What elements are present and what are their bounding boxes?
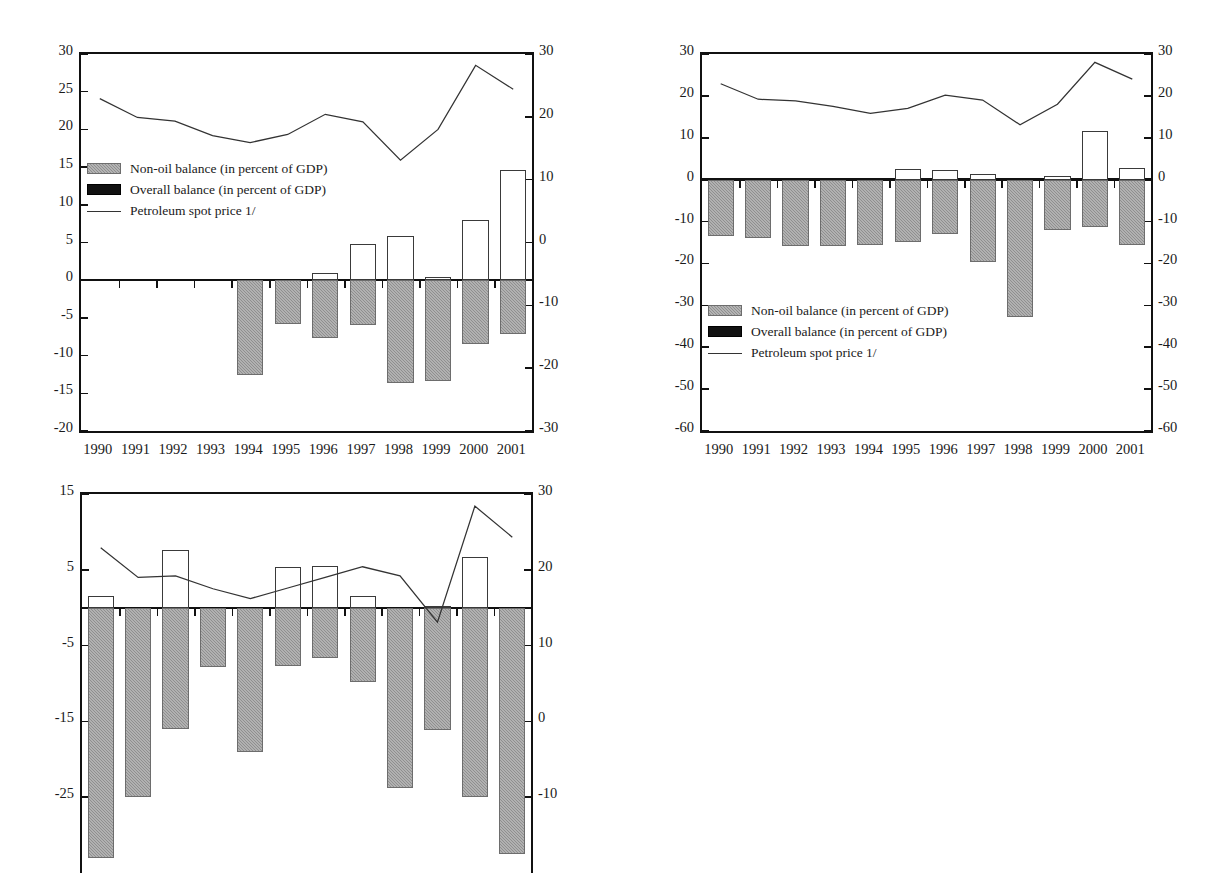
y-tick-label-right: -60 bbox=[1158, 419, 1214, 436]
y-tick-label-left: -10 bbox=[15, 344, 73, 361]
oil-price-line-layer bbox=[82, 494, 531, 873]
y-tick-label-right: 10 bbox=[539, 168, 595, 185]
y-tick-label-right: 0 bbox=[539, 231, 595, 248]
y-tick-label-left: 15 bbox=[16, 482, 74, 499]
y-tick-label-right: 30 bbox=[539, 42, 595, 59]
y-tick-label-right: 20 bbox=[539, 105, 595, 122]
y-tick-label-right: -30 bbox=[1158, 293, 1214, 310]
y-tick-label-right: 10 bbox=[538, 634, 594, 651]
chart-panel-equatorial-guinea: Equatorial Guinea Non-oil balance (in pe… bbox=[0, 0, 620, 480]
y-tick-label-left: 30 bbox=[15, 42, 73, 59]
y-tick-label-left: 0 bbox=[15, 268, 73, 285]
y-tick-label-right: -50 bbox=[1158, 377, 1214, 394]
y-tick-label-left: -15 bbox=[15, 381, 73, 398]
y-tick-label-right: 20 bbox=[1158, 84, 1214, 101]
y-tick-label-right: 30 bbox=[1158, 42, 1214, 59]
y-tick-label-left: -60 bbox=[636, 419, 694, 436]
y-tick-label-left: -5 bbox=[15, 306, 73, 323]
y-tick-label-left: 10 bbox=[15, 193, 73, 210]
plot-area-equatorial-guinea bbox=[79, 52, 534, 433]
oil-price-line-layer bbox=[702, 54, 1151, 431]
y-tick-label-left: 0 bbox=[636, 168, 694, 185]
plot-area-nigeria bbox=[80, 492, 533, 873]
y-tick-label-right: -10 bbox=[538, 785, 594, 802]
y-tick-label-right: -20 bbox=[539, 356, 595, 373]
x-axis-year-label: 2001 bbox=[1106, 441, 1154, 458]
y-tick-label-left: -15 bbox=[16, 709, 74, 726]
y-tick-label-right: 20 bbox=[538, 558, 594, 575]
x-axis-year-label: 2001 bbox=[487, 441, 535, 458]
chart-panel-gabon: Gabon Non-oil balance (in percent of GDP… bbox=[620, 0, 1220, 480]
y-tick-label-right: 10 bbox=[1158, 126, 1214, 143]
y-tick-label-right: -10 bbox=[1158, 210, 1214, 227]
y-tick-label-left: 5 bbox=[16, 558, 74, 575]
y-tick-label-left: 10 bbox=[636, 126, 694, 143]
oil-price-line bbox=[100, 65, 513, 160]
y-tick-label-left: -50 bbox=[636, 377, 694, 394]
chart-panel-nigeria: Nigeria 155-5-15-253020100-10 bbox=[0, 480, 620, 764]
y-tick-label-left: 20 bbox=[15, 117, 73, 134]
oil-price-line bbox=[721, 62, 1133, 124]
y-tick-label-left: 5 bbox=[15, 231, 73, 248]
y-tick-label-left: 25 bbox=[15, 80, 73, 97]
y-tick-label-left: 20 bbox=[636, 84, 694, 101]
y-tick-label-left: 30 bbox=[636, 42, 694, 59]
y-tick-label-right: -40 bbox=[1158, 335, 1214, 352]
y-tick-label-right: 0 bbox=[1158, 168, 1214, 185]
y-tick-label-right: -20 bbox=[1158, 251, 1214, 268]
y-tick-label-right: -10 bbox=[539, 293, 595, 310]
y-tick-label-left: -25 bbox=[16, 785, 74, 802]
y-tick-label-right: 30 bbox=[538, 482, 594, 499]
y-tick-label-left: -5 bbox=[16, 634, 74, 651]
y-tick-label-left: -10 bbox=[636, 210, 694, 227]
plot-area-gabon bbox=[700, 52, 1153, 433]
y-tick-label-left: -20 bbox=[15, 419, 73, 436]
y-tick-label-left: -30 bbox=[636, 293, 694, 310]
y-tick-label-left: -20 bbox=[636, 251, 694, 268]
y-tick-label-right: -30 bbox=[539, 419, 595, 436]
oil-price-line-layer bbox=[81, 54, 532, 431]
oil-price-line bbox=[101, 506, 513, 622]
y-tick-label-left: -40 bbox=[636, 335, 694, 352]
y-tick-label-left: 15 bbox=[15, 155, 73, 172]
y-tick-label-right: 0 bbox=[538, 709, 594, 726]
